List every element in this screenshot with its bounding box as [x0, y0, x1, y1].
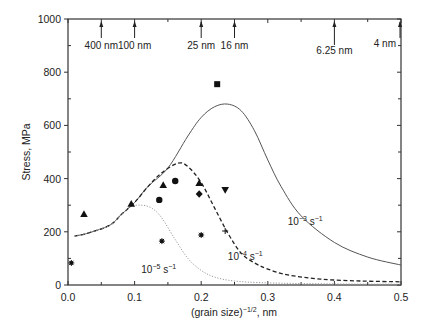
- triangle-up-marker-icon: [159, 181, 167, 188]
- x-axis-title: (grain size)−1/2, nm: [191, 306, 277, 318]
- plot-frame: [68, 19, 401, 285]
- y-tick-label: 0: [55, 279, 61, 291]
- grain-size-marker-label: 25 nm: [187, 40, 215, 51]
- curve-dashed: [75, 163, 401, 282]
- strain-rate-label: 10−5 s−1: [141, 263, 176, 275]
- x-tick-label: 0.5: [394, 291, 409, 303]
- grain-size-marker-label: 4 nm: [374, 38, 396, 49]
- curve-dotted: [75, 205, 401, 284]
- asterisk-marker-icon: [68, 260, 74, 266]
- asterisk-marker-icon: [159, 238, 165, 244]
- triangle-up-marker-icon: [195, 179, 203, 186]
- grain-size-marker-label: 16 nm: [221, 40, 249, 51]
- x-tick-label: 0.0: [61, 291, 76, 303]
- data-points: [68, 81, 229, 266]
- axes: 0.00.10.20.30.40.502004006008001000: [38, 13, 409, 303]
- strain-rate-label: 10−3 s−1: [288, 215, 323, 227]
- y-axis-title: Stress, MPa: [20, 123, 32, 180]
- arrowhead-icon: [133, 21, 137, 27]
- y-tick-label: 1000: [38, 13, 62, 25]
- grain-size-marker-label: 6.25 nm: [316, 45, 352, 56]
- asterisk-marker-icon: [198, 232, 204, 238]
- x-tick-label: 0.1: [127, 291, 142, 303]
- x-tick-label: 0.3: [260, 291, 275, 303]
- arrowhead-icon: [99, 21, 103, 27]
- x-tick-label: 0.4: [327, 291, 342, 303]
- diamond-marker-icon: [196, 190, 203, 198]
- curve-solid: [75, 104, 401, 265]
- stress-vs-grain-size-chart: 0.00.10.20.30.40.502004006008001000 400 …: [0, 0, 428, 334]
- x-tick-label: 0.2: [194, 291, 209, 303]
- y-tick-label: 800: [43, 66, 61, 78]
- plus-marker-icon: [222, 228, 228, 234]
- y-tick-label: 400: [43, 173, 61, 185]
- circle-marker-icon: [156, 197, 162, 203]
- circle-marker-icon: [172, 178, 178, 184]
- y-tick-label: 600: [43, 119, 61, 131]
- grain-size-marker-label: 100 nm: [118, 40, 151, 51]
- y-tick-label: 200: [43, 226, 61, 238]
- triangle-down-marker-icon: [221, 187, 229, 194]
- square-marker-icon: [214, 81, 220, 87]
- strain-rate-label: 10−4 s−1: [228, 250, 263, 262]
- arrowhead-icon: [332, 21, 336, 27]
- arrowhead-icon: [199, 21, 203, 27]
- arrowhead-icon: [233, 21, 237, 27]
- grain-size-marker-label: 400 nm: [85, 40, 118, 51]
- triangle-up-marker-icon: [80, 210, 88, 217]
- annotations: 400 nm100 nm25 nm16 nm6.25 nm4 nm10−3 s−…: [85, 21, 402, 275]
